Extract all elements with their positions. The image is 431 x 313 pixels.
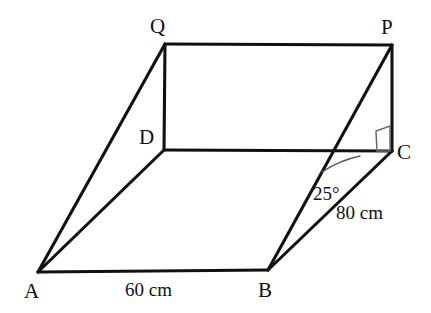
edge-AB (38, 270, 268, 272)
vertex-label-a: A (24, 281, 39, 302)
dimension-label-bc: 80 cm (336, 203, 383, 222)
vertex-label-b: B (258, 280, 272, 301)
angle-label-25: 25° (313, 184, 340, 203)
edge-QP (165, 44, 392, 45)
edge-BP (268, 45, 392, 270)
geometry-figure: Q P D C A B 60 cm 80 cm 25° (0, 0, 431, 313)
edge-AQ (38, 44, 165, 272)
vertex-label-c: C (397, 142, 411, 163)
vertex-label-p: P (381, 17, 393, 38)
vertex-label-d: D (139, 127, 154, 148)
right-angle-marker-c (376, 126, 390, 151)
geometry-canvas (0, 0, 431, 313)
vertex-label-q: Q (150, 16, 165, 37)
dimension-label-ab: 60 cm (125, 280, 172, 299)
edge-QD (164, 44, 165, 150)
edge-DA (38, 150, 164, 272)
edge-CD (164, 150, 392, 151)
